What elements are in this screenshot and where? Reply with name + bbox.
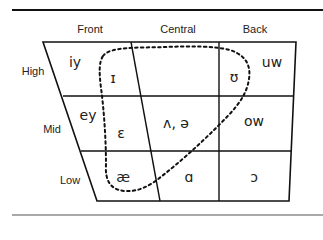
vowel-ey: ey [80, 107, 97, 123]
column-header-central: Central [160, 23, 195, 35]
vowel-ow: ow [244, 113, 264, 129]
vowel-uw: uw [262, 54, 282, 70]
row-label-high: High [22, 65, 45, 77]
column-header-front: Front [77, 23, 103, 35]
vowel-uh: ʊ [230, 69, 239, 85]
vowel-iy: iy [69, 54, 81, 70]
vowel-aa: ɑ [185, 169, 194, 185]
vowel-ih: ɪ [110, 70, 115, 86]
front-central-divider [131, 42, 160, 201]
row-label-low: Low [60, 174, 80, 186]
vowel-ae: æ [116, 169, 130, 185]
vowel-eh: ɛ [117, 125, 125, 141]
vowel-ao: ɔ [250, 169, 258, 185]
column-header-back: Back [243, 23, 267, 35]
vowel-ah-schwa: ʌ, ə [163, 115, 189, 131]
row-label-mid: Mid [43, 123, 61, 135]
